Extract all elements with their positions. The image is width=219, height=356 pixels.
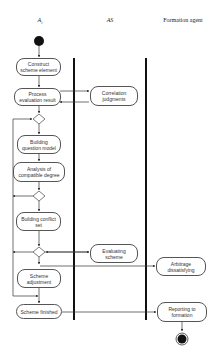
lane-title-formation-agent: Formation agent: [153, 17, 213, 23]
lane-title-as: AS: [100, 17, 120, 23]
decision-3: [33, 247, 45, 257]
node-analysis-compatible-degree: Analysis of compatible degree: [13, 162, 65, 182]
decision-1: [33, 114, 45, 124]
node-scheme-finished: Scheme finished: [16, 304, 62, 319]
decision-2: [33, 191, 45, 201]
node-arbitrage-dissatisfying: Arbitrage dissatisfying: [156, 257, 206, 276]
end-node: [178, 335, 187, 344]
start-node: [34, 36, 44, 46]
node-scheme-adjustment: Scheme adjustment: [17, 269, 61, 288]
node-correlation-judgments: Correlation judgments: [90, 86, 138, 106]
node-building-question-model: Building question model: [17, 135, 61, 154]
node-building-conflict-set: Building conflict set: [16, 212, 61, 231]
node-construct-scheme: Construct scheme element: [16, 58, 61, 76]
node-reporting-to-formation: Reporting to formation: [157, 302, 207, 322]
node-evaluating-scheme: Evaluating scheme: [90, 244, 138, 263]
lane-title-ai: Ai: [30, 17, 50, 25]
node-process-evaluation: Process evaluation result: [14, 88, 61, 106]
